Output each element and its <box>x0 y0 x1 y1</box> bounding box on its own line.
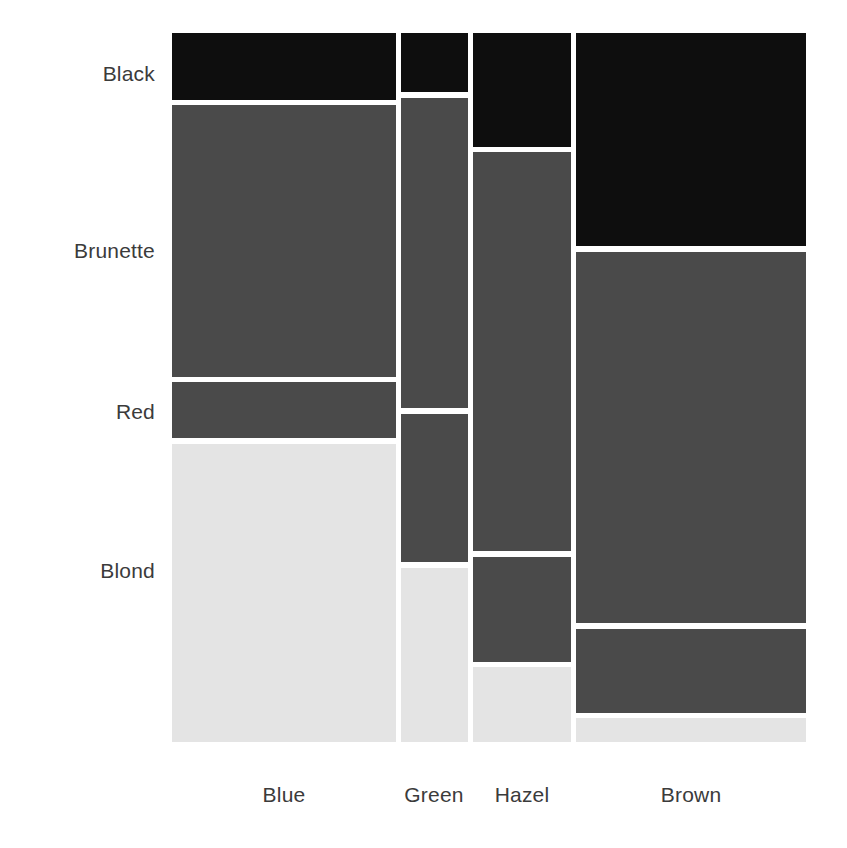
mosaic-tile-brown-red <box>576 629 806 713</box>
mosaic-plot-area <box>0 0 847 848</box>
mosaic-tile-brown-blond <box>576 718 806 742</box>
mosaic-tile-green-red <box>401 414 468 562</box>
y-axis-label-red: Red <box>116 400 155 424</box>
mosaic-tile-brown-brunette <box>576 252 806 623</box>
y-axis-label-brunette: Brunette <box>74 239 155 263</box>
y-axis-label-black: Black <box>103 62 155 86</box>
mosaic-tile-hazel-black <box>473 33 571 147</box>
mosaic-tile-green-brunette <box>401 98 468 408</box>
x-axis-label-brown: Brown <box>591 783 791 807</box>
y-axis-label-blond: Blond <box>100 559 155 583</box>
mosaic-tile-hazel-red <box>473 557 571 662</box>
mosaic-tile-hazel-blond <box>473 667 571 742</box>
mosaic-tile-blue-brunette <box>172 105 396 377</box>
mosaic-plot-figure: BlackBrunetteRedBlond BlueGreenHazelBrow… <box>0 0 847 848</box>
mosaic-tile-green-blond <box>401 568 468 742</box>
mosaic-tile-blue-black <box>172 33 396 100</box>
mosaic-tile-hazel-brunette <box>473 152 571 551</box>
mosaic-tile-green-black <box>401 33 468 92</box>
mosaic-tile-blue-red <box>172 382 396 438</box>
mosaic-tile-blue-blond <box>172 444 396 742</box>
mosaic-tile-brown-black <box>576 33 806 246</box>
